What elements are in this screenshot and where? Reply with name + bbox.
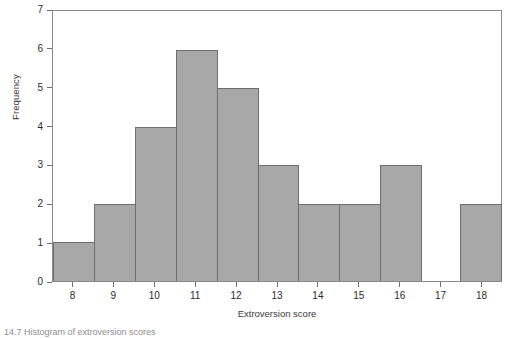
y-tick-label: 0 (37, 277, 47, 287)
histogram-bar (94, 204, 136, 281)
y-axis-ticks: 01234567 (0, 10, 52, 282)
x-tick-mark (195, 282, 196, 287)
histogram-bar (258, 165, 300, 281)
x-tick: 15 (344, 282, 374, 301)
histogram-bar (135, 127, 177, 281)
x-tick: 12 (221, 282, 251, 301)
x-tick: 14 (303, 282, 333, 301)
x-tick: 17 (426, 282, 456, 301)
histogram-figure: Frequency 01234567 89101112131415161718 … (0, 0, 510, 338)
y-tick-label: 7 (37, 5, 47, 15)
histogram-bar (176, 50, 218, 281)
x-tick-label: 14 (303, 290, 333, 301)
x-tick-mark (154, 282, 155, 287)
histogram-bar (217, 88, 259, 281)
x-axis-title: Extroversion score (52, 308, 502, 319)
x-tick-mark (481, 282, 482, 287)
x-tick-label: 15 (344, 290, 374, 301)
y-tick-label: 3 (37, 160, 47, 170)
x-tick-label: 18 (467, 290, 497, 301)
x-tick: 10 (139, 282, 169, 301)
x-tick-mark (358, 282, 359, 287)
y-tick: 2 (37, 199, 52, 209)
x-tick-label: 8 (57, 290, 87, 301)
x-tick-mark (236, 282, 237, 287)
x-tick-mark (72, 282, 73, 287)
y-tick: 6 (37, 44, 52, 54)
histogram-bar (339, 204, 381, 281)
x-tick: 8 (57, 282, 87, 301)
x-tick-label: 13 (262, 290, 292, 301)
x-tick-label: 12 (221, 290, 251, 301)
x-tick-label: 17 (426, 290, 456, 301)
x-tick: 18 (467, 282, 497, 301)
x-tick-mark (440, 282, 441, 287)
histogram-bar (298, 204, 340, 281)
x-tick-mark (113, 282, 114, 287)
y-tick: 5 (37, 83, 52, 93)
y-tick: 7 (37, 5, 52, 15)
figure-caption: 14.7 Histogram of extroversion scores (4, 327, 156, 337)
x-tick-mark (317, 282, 318, 287)
y-tick-label: 6 (37, 44, 47, 54)
y-tick-label: 2 (37, 199, 47, 209)
x-tick: 16 (385, 282, 415, 301)
x-tick-label: 16 (385, 290, 415, 301)
y-tick-label: 5 (37, 83, 47, 93)
x-tick-label: 9 (98, 290, 128, 301)
plot-area (52, 10, 502, 282)
x-tick: 11 (180, 282, 210, 301)
x-tick-label: 10 (139, 290, 169, 301)
y-tick: 0 (37, 277, 52, 287)
x-tick-label: 11 (180, 290, 210, 301)
y-tick: 3 (37, 160, 52, 170)
x-tick-mark (399, 282, 400, 287)
y-tick-label: 1 (37, 238, 47, 248)
x-tick: 9 (98, 282, 128, 301)
histogram-bar (53, 242, 95, 281)
x-tick-mark (277, 282, 278, 287)
histogram-bar (380, 165, 422, 281)
bars-container (53, 11, 501, 281)
y-tick-label: 4 (37, 122, 47, 132)
x-tick: 13 (262, 282, 292, 301)
y-tick: 4 (37, 122, 52, 132)
histogram-bar (460, 204, 502, 281)
y-tick: 1 (37, 238, 52, 248)
